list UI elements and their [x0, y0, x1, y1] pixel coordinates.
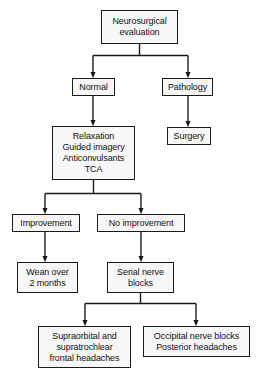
node-normal: Normal	[72, 78, 115, 96]
node-surgery: Surgery	[167, 127, 211, 145]
node-serial-nerve-blocks: Serial nerve blocks	[107, 262, 174, 293]
node-wean-over-2-months: Wean over 2 months	[17, 262, 78, 293]
flowchart-diagram: Neurosurgical evaluation Normal Patholog…	[0, 0, 263, 379]
node-no-improvement: No improvement	[97, 214, 185, 232]
node-pathology: Pathology	[162, 78, 213, 96]
node-conservative-therapy: Relaxation Guided imagery Anticonvulsant…	[52, 126, 135, 180]
node-neurosurgical-evaluation: Neurosurgical evaluation	[101, 10, 178, 44]
flowchart-connectors	[0, 0, 263, 379]
node-occipital-nerve-blocks: Occipital nerve blocks Posterior headach…	[143, 326, 250, 357]
node-supraorbital-supratrochlear: Supraorbital and supratrochlear frontal …	[38, 326, 131, 368]
node-improvement: Improvement	[12, 214, 80, 232]
